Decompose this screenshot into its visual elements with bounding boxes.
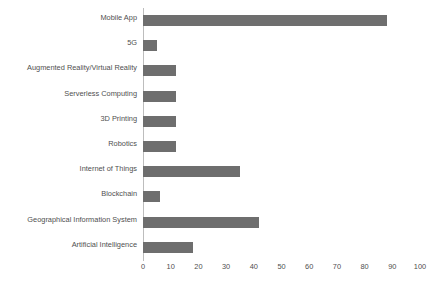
category-label: Mobile App xyxy=(100,12,137,23)
x-axis-tick-label: 40 xyxy=(250,262,258,271)
bar xyxy=(143,141,176,152)
category-label: Geographical Information System xyxy=(27,214,137,225)
x-axis-tick-label: 60 xyxy=(305,262,313,271)
x-axis-tick-label: 80 xyxy=(360,262,368,271)
bar-row: Artificial Intelligence xyxy=(143,235,420,260)
category-label: 5G xyxy=(127,37,137,48)
category-label: Internet of Things xyxy=(80,163,137,174)
bar-row: 3D Printing xyxy=(143,109,420,134)
category-label: Blockchain xyxy=(101,188,137,199)
bar-row: Robotics xyxy=(143,134,420,159)
plot-area: Mobile App5GAugmented Reality/Virtual Re… xyxy=(143,8,420,260)
bar xyxy=(143,91,176,102)
bar-row: Augmented Reality/Virtual Reality xyxy=(143,58,420,83)
x-axis-tick-label: 50 xyxy=(277,262,285,271)
x-axis: 0102030405060708090100 xyxy=(143,262,420,282)
bar-row: Mobile App xyxy=(143,8,420,33)
bar-chart: Mobile App5GAugmented Reality/Virtual Re… xyxy=(0,0,443,292)
x-axis-tick-label: 30 xyxy=(222,262,230,271)
bar-row: Blockchain xyxy=(143,184,420,209)
bar xyxy=(143,217,259,228)
bar xyxy=(143,15,387,26)
bar xyxy=(143,40,157,51)
x-axis-tick-label: 10 xyxy=(167,262,175,271)
bar-row: Geographical Information System xyxy=(143,210,420,235)
bar xyxy=(143,191,160,202)
x-axis-tick-label: 20 xyxy=(194,262,202,271)
category-label: Robotics xyxy=(108,138,137,149)
x-axis-tick-label: 70 xyxy=(333,262,341,271)
x-axis-tick-label: 100 xyxy=(414,262,426,271)
bar xyxy=(143,116,176,127)
category-label: Serverless Computing xyxy=(64,88,137,99)
x-axis-tick-label: 90 xyxy=(388,262,396,271)
bar xyxy=(143,166,240,177)
category-label: Artificial Intelligence xyxy=(72,239,137,250)
bar xyxy=(143,65,176,76)
category-label: 3D Printing xyxy=(100,113,137,124)
bar-row: 5G xyxy=(143,33,420,58)
category-label: Augmented Reality/Virtual Reality xyxy=(27,62,137,73)
bar-row: Serverless Computing xyxy=(143,84,420,109)
bar xyxy=(143,242,193,253)
x-axis-tick-label: 0 xyxy=(141,262,145,271)
bar-row: Internet of Things xyxy=(143,159,420,184)
